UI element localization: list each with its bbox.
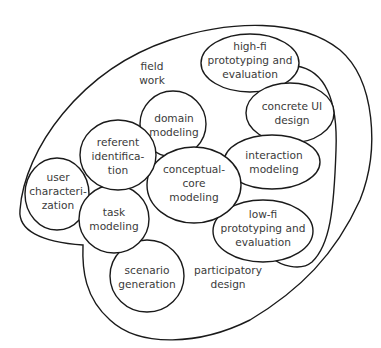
- task-ellipse: [79, 185, 149, 253]
- node-label: modeling: [149, 126, 198, 138]
- node-label: concrete UI: [262, 100, 322, 112]
- node-label: task: [103, 206, 126, 218]
- node-label: evaluation: [222, 68, 278, 80]
- field-work-label: work: [139, 74, 166, 86]
- node-label: user: [46, 171, 70, 183]
- node-concrete-ui-design[interactable]: concrete UI design: [246, 83, 334, 143]
- node-label: prototyping and: [221, 222, 306, 234]
- node-label: modeling: [89, 220, 138, 232]
- node-label: zation: [42, 199, 74, 211]
- node-label: identifica-: [92, 150, 145, 162]
- node-label: modeling: [249, 163, 298, 175]
- node-label: prototyping and: [208, 54, 293, 66]
- node-label: tion: [108, 164, 128, 176]
- node-conceptual-core-modeling[interactable]: conceptual- core modeling: [147, 147, 241, 223]
- node-label: modeling: [169, 191, 218, 203]
- node-task-modeling[interactable]: task modeling: [79, 185, 149, 253]
- node-label: scenario: [125, 264, 170, 276]
- node-label: evaluation: [235, 236, 291, 248]
- node-label: conceptual-: [163, 163, 225, 175]
- node-referent-identification[interactable]: referent identifica- tion: [80, 120, 156, 190]
- concrete-ui-ellipse: [246, 83, 334, 143]
- node-label: characteri-: [29, 185, 87, 197]
- node-label: core: [183, 177, 206, 189]
- node-label: high-fi: [233, 40, 267, 52]
- node-label: domain: [154, 112, 194, 124]
- node-label: referent: [97, 136, 139, 148]
- node-label: design: [274, 114, 309, 126]
- field-work-label: field: [141, 60, 164, 72]
- participatory-design-label: design: [210, 278, 245, 290]
- node-label: low-fi: [249, 208, 278, 220]
- participatory-design-label: participatory: [194, 264, 262, 276]
- node-label: generation: [118, 278, 176, 290]
- process-diagram: high-fi prototyping and evaluation concr…: [0, 0, 381, 348]
- node-label: interaction: [245, 149, 302, 161]
